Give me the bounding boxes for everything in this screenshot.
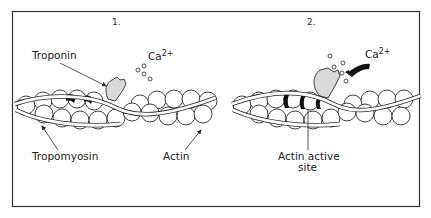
- troponin-label: Troponin: [31, 49, 77, 61]
- tropomyosin-label: Tropomyosin: [31, 150, 98, 162]
- calcium-binding-arrow: [349, 64, 370, 77]
- panel-1: 1. Ca2+ Troponin: [15, 17, 217, 162]
- troponin-complex: [106, 77, 126, 101]
- calcium-label: Ca2+: [365, 47, 391, 60]
- panel-2-number: 2.: [307, 17, 316, 27]
- actin-label: Actin: [163, 150, 189, 162]
- troponin-diagram: 1. Ca2+ Troponin: [0, 0, 431, 218]
- active-site-label-line2: site: [298, 161, 317, 173]
- calcium-label: Ca2+: [148, 49, 174, 62]
- calcium-ions: [136, 64, 152, 81]
- troponin-complex: [314, 68, 340, 98]
- panel-1-number: 1.: [112, 17, 121, 27]
- panel-2: 2. Ca2+ Actin acti: [232, 17, 420, 173]
